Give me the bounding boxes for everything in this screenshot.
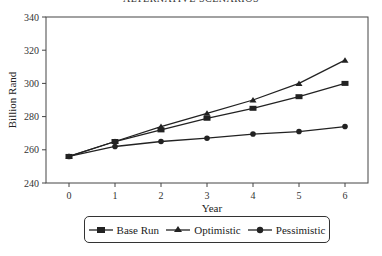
y-tick-label: 260 — [24, 144, 39, 155]
legend-label: Optimistic — [194, 224, 240, 236]
legend-item-pessimistic: Pessimistic — [248, 224, 326, 236]
circle-marker-icon — [66, 154, 72, 160]
triangle-marker-icon — [166, 225, 190, 235]
x-tick-label: 6 — [343, 190, 348, 201]
square-marker-icon — [204, 116, 211, 121]
circle-marker-icon — [250, 131, 256, 137]
x-tick-label: 2 — [159, 190, 164, 201]
circle-marker-icon — [204, 135, 210, 141]
x-tick-label: 4 — [251, 190, 256, 201]
legend-item-optimistic: Optimistic — [166, 224, 240, 236]
x-axis-label: Year — [202, 202, 223, 214]
circle-marker-icon — [112, 144, 118, 150]
circle-marker-icon — [296, 129, 302, 135]
x-tick-label: 1 — [113, 190, 118, 201]
x-tick-label: 0 — [67, 190, 72, 201]
y-tick-label: 240 — [24, 178, 39, 189]
y-tick-label: 340 — [24, 12, 39, 23]
circle-marker-icon — [158, 139, 164, 145]
legend-label: Base Run — [117, 224, 159, 236]
circle-marker-icon — [342, 124, 348, 130]
legend-label: Pessimistic — [276, 224, 326, 236]
y-tick-label: 320 — [24, 45, 39, 56]
y-axis-label: Billion Rand — [6, 71, 18, 128]
x-tick-label: 3 — [205, 190, 210, 201]
series-line — [69, 127, 345, 157]
y-tick-label: 280 — [24, 111, 39, 122]
triangle-marker-icon — [342, 57, 349, 63]
square-marker-icon — [250, 106, 257, 111]
legend-item-base-run: Base Run — [89, 224, 159, 236]
square-marker-icon — [296, 94, 303, 99]
plot-frame — [46, 17, 368, 183]
triangle-marker-icon — [296, 80, 303, 86]
chart-legend: Base Run Optimistic Pessimistic — [84, 216, 330, 243]
square-marker-icon — [89, 225, 113, 235]
x-tick-label: 5 — [297, 190, 302, 201]
square-marker-icon — [342, 81, 349, 86]
circle-marker-icon — [248, 225, 272, 235]
series-line — [69, 60, 345, 156]
y-tick-label: 300 — [24, 78, 39, 89]
